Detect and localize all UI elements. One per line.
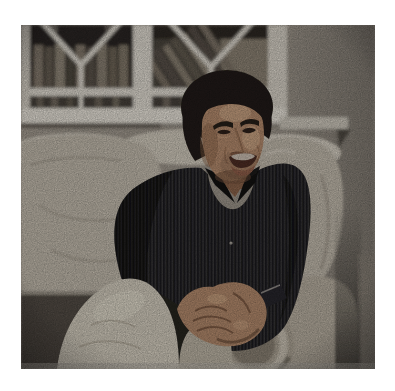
photo-frame xyxy=(21,25,375,369)
photograph-man-on-sofa xyxy=(21,25,375,369)
film-grain-overlay xyxy=(21,25,375,369)
photo-page xyxy=(0,0,395,391)
